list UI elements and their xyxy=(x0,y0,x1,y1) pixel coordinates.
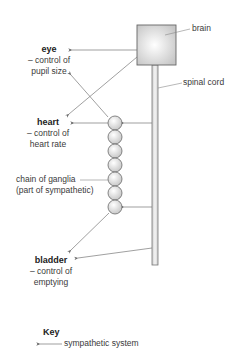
heart-title: heart xyxy=(23,117,73,128)
heart-label: heart – control of heart rate xyxy=(23,117,73,150)
ganglion xyxy=(108,200,122,214)
eye-label: eye – control of pupil size xyxy=(24,44,74,77)
bladder-line2: emptying xyxy=(26,277,76,288)
eye-line1: – control of xyxy=(24,55,74,66)
spinal-cord-pointer-line xyxy=(158,83,182,88)
ganglia-label: chain of ganglia (part of sympathetic) xyxy=(16,174,93,196)
arrow-ganglion-to-bladder xyxy=(71,213,109,250)
key-title: Key xyxy=(43,327,60,337)
heart-line1: – control of xyxy=(23,128,73,139)
ganglia-line1: chain of ganglia xyxy=(16,174,93,185)
ganglion xyxy=(108,144,122,158)
ganglia-line2: (part of sympathetic) xyxy=(16,185,93,196)
ganglion xyxy=(108,172,122,186)
ganglion xyxy=(108,158,122,172)
key-item-label: sympathetic system xyxy=(64,338,139,348)
eye-line2: pupil size xyxy=(24,66,74,77)
heart-line2: heart rate xyxy=(23,139,73,150)
arrow-cord-to-bladder xyxy=(78,248,152,258)
arrow-ganglion-to-pupil xyxy=(71,75,108,117)
bladder-label: bladder – control of emptying xyxy=(26,255,76,288)
arrow-brain-to-heart xyxy=(69,57,137,114)
spinal-cord-label: spinal cord xyxy=(183,77,224,88)
brain-label: brain xyxy=(192,23,211,34)
ganglia-chain xyxy=(108,116,122,214)
brain-box xyxy=(137,25,176,65)
ganglion xyxy=(108,116,122,130)
ganglion xyxy=(108,130,122,144)
eye-title: eye xyxy=(24,44,74,55)
ganglion xyxy=(108,186,122,200)
bladder-line1: – control of xyxy=(26,266,76,277)
spinal-cord xyxy=(152,65,158,265)
bladder-title: bladder xyxy=(26,255,76,266)
